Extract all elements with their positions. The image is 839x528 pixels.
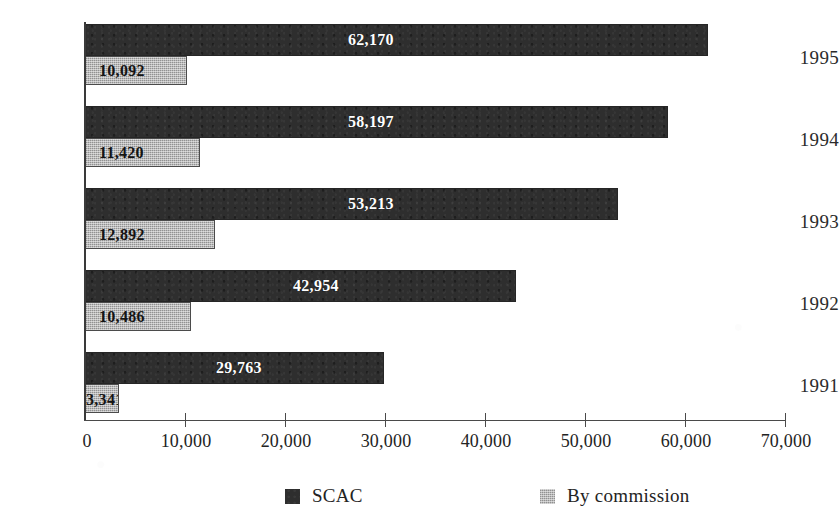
bar-value-scac-1995: 62,170 — [348, 32, 394, 48]
bar-commission-1991[interactable]: 3,341 — [86, 384, 119, 413]
bar-value-scac-1991: 29,763 — [216, 360, 262, 376]
x-tick-70000 — [785, 413, 786, 427]
plot-area: 1995 1994 1993 1992 1991 62,170 10,092 5… — [0, 0, 839, 430]
bar-chart: 1995 1994 1993 1992 1991 62,170 10,092 5… — [0, 0, 839, 528]
bar-value-commission-1995: 10,092 — [99, 63, 145, 79]
legend-entry-scac[interactable]: SCAC — [285, 485, 363, 507]
bar-value-commission-1991: 3,341 — [86, 392, 119, 408]
x-tick-label-20000: 20,000 — [261, 431, 312, 452]
legend-label-scac: SCAC — [312, 485, 363, 507]
x-tick-60000 — [685, 413, 686, 427]
bar-value-scac-1993: 53,213 — [348, 196, 394, 212]
legend-label-commission: By commission — [567, 485, 690, 507]
x-tick-40000 — [485, 413, 486, 427]
x-tick-50000 — [585, 413, 586, 427]
x-axis-line — [84, 420, 786, 421]
bar-value-commission-1993: 12,892 — [99, 227, 145, 243]
chart-legend: SCAC By commission — [0, 481, 839, 513]
bar-scac-1995[interactable] — [86, 24, 708, 56]
x-tick-label-40000: 40,000 — [461, 431, 512, 452]
x-tick-label-50000: 50,000 — [561, 431, 612, 452]
category-label-1994: 1994 — [765, 129, 839, 151]
x-tick-label-30000: 30,000 — [361, 431, 412, 452]
category-label-1992: 1992 — [765, 293, 839, 315]
bar-value-scac-1992: 42,954 — [293, 278, 339, 294]
x-tick-10000 — [185, 413, 186, 427]
x-tick-30000 — [385, 413, 386, 427]
legend-entry-commission[interactable]: By commission — [540, 485, 690, 507]
bar-value-commission-1992: 10,486 — [99, 309, 145, 325]
bar-value-scac-1994: 58,197 — [348, 114, 394, 130]
x-tick-20000 — [285, 413, 286, 427]
category-label-1993: 1993 — [765, 211, 839, 233]
legend-swatch-scac-icon — [285, 489, 300, 504]
x-tick-label-60000: 60,000 — [661, 431, 712, 452]
x-tick-label-10000: 10,000 — [161, 431, 212, 452]
x-tick-label-70000: 70,000 — [761, 431, 812, 452]
y-axis-line — [84, 22, 86, 421]
bar-value-commission-1994: 11,420 — [99, 145, 144, 161]
category-label-1995: 1995 — [765, 47, 839, 69]
x-tick-label-0: 0 — [82, 431, 91, 452]
legend-swatch-commission-icon — [540, 489, 555, 504]
category-label-1991: 1991 — [765, 375, 839, 397]
